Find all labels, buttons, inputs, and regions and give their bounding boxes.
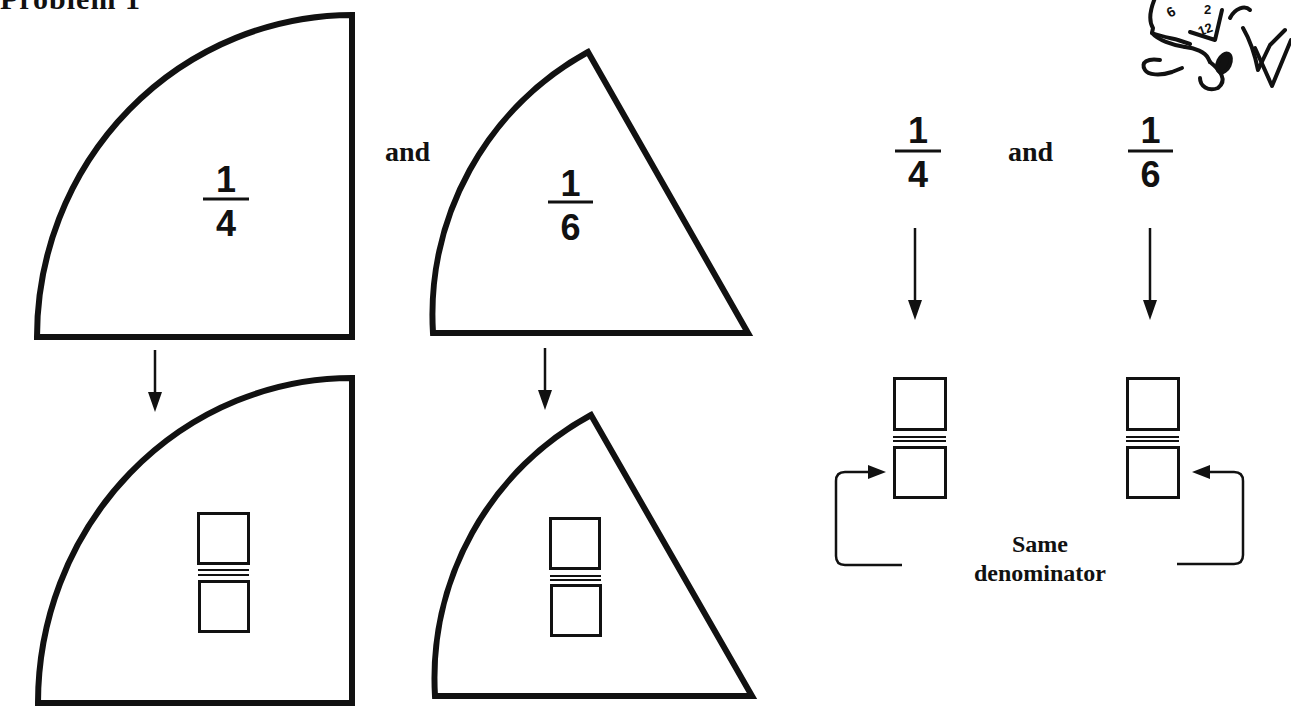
quarter-circle-sector-top: [37, 15, 352, 337]
note-same: Same: [990, 532, 1090, 556]
numerator-answer-box[interactable]: [197, 512, 250, 565]
connector-arrow-right-icon: [1177, 465, 1243, 564]
fraction-numerator: 1: [895, 113, 941, 149]
note-denominator: denominator: [950, 561, 1130, 585]
fraction-numerator: 1: [1128, 113, 1173, 149]
and-label: and: [1008, 138, 1053, 166]
fraction-denominator: 6: [548, 210, 593, 246]
numerator-answer-box[interactable]: [1126, 377, 1180, 431]
numerator-answer-box[interactable]: [893, 377, 947, 431]
fraction-double-bar: [893, 437, 946, 441]
down-arrow-icon: [148, 350, 162, 412]
denominator-answer-box[interactable]: [550, 584, 602, 637]
cartoon-mascot-icon: 6 2 12: [1143, 0, 1291, 89]
diagram-canvas: 6 2 12: [0, 0, 1291, 716]
worksheet: Problem 1: [0, 0, 1291, 716]
fraction-denominator: 4: [895, 157, 941, 193]
quarter-circle-sector-bottom: [38, 378, 352, 703]
fraction-denominator: 4: [203, 206, 249, 242]
and-label: and: [385, 138, 430, 166]
down-arrow-icon: [538, 348, 552, 410]
denominator-answer-box[interactable]: [1126, 446, 1180, 499]
svg-text:6: 6: [1164, 3, 1179, 21]
fraction-denominator: 6: [1128, 157, 1173, 193]
denominator-answer-box[interactable]: [893, 446, 947, 499]
down-arrow-icon: [1143, 228, 1157, 320]
fraction-double-bar: [1126, 437, 1179, 441]
fraction-numerator: 1: [548, 166, 593, 202]
denominator-answer-box[interactable]: [198, 580, 250, 633]
svg-text:2: 2: [1204, 2, 1211, 17]
numerator-answer-box[interactable]: [549, 517, 601, 570]
fraction-numerator: 1: [203, 162, 249, 198]
down-arrow-icon: [908, 228, 922, 320]
